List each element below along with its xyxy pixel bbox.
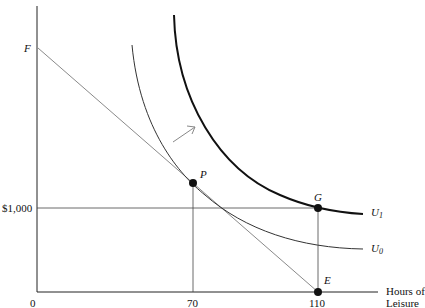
label-p: P	[200, 168, 207, 180]
u1-base: U	[371, 206, 379, 218]
tick-70: 70	[187, 297, 198, 308]
u0-base: U	[371, 242, 379, 254]
budget-line	[38, 48, 318, 292]
label-g: G	[314, 191, 322, 203]
x-axis-label-line2: Leisure	[386, 297, 419, 308]
label-e: E	[324, 274, 331, 286]
shift-arrow	[173, 127, 195, 142]
tick-0: 0	[30, 297, 36, 308]
label-u1: U1	[371, 206, 383, 222]
label-u0: U0	[371, 242, 383, 258]
label-f: F	[24, 42, 31, 54]
indifference-curve-u1	[174, 15, 363, 214]
point-e	[314, 288, 322, 296]
tick-1000: $1,000	[2, 202, 32, 214]
point-p	[189, 179, 197, 187]
indifference-curve-u0	[132, 45, 363, 249]
point-g	[314, 204, 322, 212]
u0-sub: 0	[379, 247, 383, 256]
tick-110: 110	[309, 297, 325, 308]
x-axis-label-line1: Hours of	[386, 285, 425, 297]
u1-sub: 1	[379, 211, 383, 220]
